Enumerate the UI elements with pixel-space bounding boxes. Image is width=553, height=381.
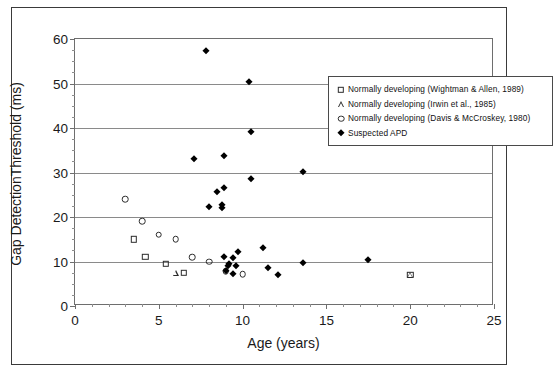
open-circle-icon xyxy=(338,115,345,122)
open-square-icon xyxy=(335,83,348,96)
data-point xyxy=(239,271,246,278)
plot-area: 0102030405060 0510152025 Normally develo… xyxy=(74,38,493,305)
x-tick-label-0: 0 xyxy=(71,313,79,328)
x-tick-major-10 xyxy=(243,304,244,309)
data-point xyxy=(205,203,213,211)
y-tick-minor xyxy=(72,250,75,251)
x-tick-minor xyxy=(192,304,193,307)
open-triangle-icon xyxy=(338,101,344,107)
x-tick-major-0 xyxy=(75,304,76,309)
y-tick-minor xyxy=(72,150,75,151)
y-tick-minor xyxy=(72,106,75,107)
legend-item-0[interactable]: Normally developing (Wightman & Allen, 1… xyxy=(335,82,546,97)
data-point xyxy=(190,155,198,163)
data-point xyxy=(130,236,136,242)
open-triangle-icon xyxy=(335,97,348,110)
y-tick-major-20 xyxy=(70,217,75,218)
filled-diamond-icon xyxy=(337,129,345,137)
x-tick-label-10: 10 xyxy=(235,313,250,328)
x-tick-minor xyxy=(125,304,126,307)
y-tick-label-60: 60 xyxy=(53,32,68,47)
data-point xyxy=(156,232,163,239)
x-tick-minor xyxy=(477,304,478,307)
filled-diamond-icon xyxy=(335,126,348,139)
x-tick-minor xyxy=(109,304,110,307)
data-point xyxy=(274,271,282,279)
data-point xyxy=(229,271,237,279)
figure-frame: Gap DetectionThreshold (ms) Age (years) … xyxy=(11,7,507,365)
data-point xyxy=(206,258,213,265)
legend-item-1[interactable]: Normally developing (Irwin et al., 1985) xyxy=(335,97,546,112)
data-point xyxy=(181,269,187,275)
data-point xyxy=(142,254,148,260)
gridline-y-10 xyxy=(75,262,492,263)
y-tick-major-30 xyxy=(70,173,75,174)
legend-item-3[interactable]: Suspected APD xyxy=(335,126,546,141)
x-tick-minor xyxy=(444,304,445,307)
data-point xyxy=(172,236,179,243)
y-tick-minor xyxy=(72,95,75,96)
data-point xyxy=(139,218,146,225)
x-tick-minor xyxy=(142,304,143,307)
x-tick-major-15 xyxy=(326,304,327,309)
x-tick-major-20 xyxy=(410,304,411,309)
y-tick-major-50 xyxy=(70,84,75,85)
data-point xyxy=(259,244,267,252)
y-tick-minor xyxy=(72,295,75,296)
x-tick-minor xyxy=(393,304,394,307)
data-point xyxy=(122,196,129,203)
y-tick-major-10 xyxy=(70,262,75,263)
data-point xyxy=(220,152,228,160)
x-tick-minor xyxy=(209,304,210,307)
y-tick-minor xyxy=(72,72,75,73)
y-tick-label-40: 40 xyxy=(53,121,68,136)
x-tick-minor xyxy=(259,304,260,307)
data-point xyxy=(299,168,307,176)
data-point xyxy=(220,184,228,192)
y-tick-minor xyxy=(72,139,75,140)
x-tick-minor xyxy=(460,304,461,307)
data-point xyxy=(162,261,168,267)
y-tick-major-40 xyxy=(70,128,75,129)
data-point xyxy=(407,272,413,278)
data-point xyxy=(214,188,222,196)
x-tick-minor xyxy=(293,304,294,307)
y-tick-label-30: 30 xyxy=(53,165,68,180)
gridline-y-30 xyxy=(75,173,492,174)
x-tick-minor xyxy=(343,304,344,307)
y-tick-minor xyxy=(72,184,75,185)
gridline-y-20 xyxy=(75,217,492,218)
y-axis-title: Gap DetectionThreshold (ms) xyxy=(8,82,24,266)
y-tick-minor xyxy=(72,161,75,162)
y-tick-minor xyxy=(72,117,75,118)
legend-item-label: Normally developing (Irwin et al., 1985) xyxy=(348,99,496,109)
x-tick-minor xyxy=(310,304,311,307)
legend-item-label: Normally developing (Davis & McCroskey, … xyxy=(348,113,530,123)
data-point xyxy=(173,270,179,276)
open-square-icon xyxy=(338,87,344,93)
data-point xyxy=(245,78,253,86)
legend-item-label: Suspected APD xyxy=(348,128,407,138)
x-tick-minor xyxy=(427,304,428,307)
y-tick-minor xyxy=(72,273,75,274)
data-point xyxy=(220,254,228,262)
x-tick-major-5 xyxy=(159,304,160,309)
legend-item-label: Normally developing (Wightman & Allen, 1… xyxy=(348,84,524,94)
x-tick-label-15: 15 xyxy=(319,313,334,328)
data-point xyxy=(232,262,240,270)
x-tick-minor xyxy=(276,304,277,307)
x-tick-minor xyxy=(92,304,93,307)
x-tick-minor xyxy=(226,304,227,307)
x-tick-label-5: 5 xyxy=(155,313,163,328)
y-tick-label-50: 50 xyxy=(53,76,68,91)
y-tick-minor xyxy=(72,50,75,51)
chart-legend: Normally developing (Wightman & Allen, 1… xyxy=(328,76,553,146)
y-tick-minor xyxy=(72,228,75,229)
y-tick-minor xyxy=(72,195,75,196)
x-axis-title: Age (years) xyxy=(74,335,493,351)
data-point xyxy=(189,254,196,261)
legend-item-2[interactable]: Normally developing (Davis & McCroskey, … xyxy=(335,111,546,126)
x-tick-minor xyxy=(377,304,378,307)
x-tick-minor xyxy=(176,304,177,307)
y-tick-minor xyxy=(72,206,75,207)
